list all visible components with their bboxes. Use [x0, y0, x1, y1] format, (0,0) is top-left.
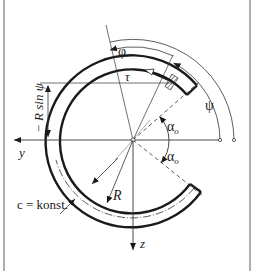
z-axis-label: z — [139, 236, 145, 251]
dimension-label: − R sin ψ — [31, 82, 46, 133]
y-axis-label: y — [17, 145, 25, 160]
alpha-upper-label: αo — [167, 119, 179, 136]
inner-wall — [60, 69, 190, 213]
phi-label: φ — [118, 44, 126, 59]
alpha-upper-line — [133, 83, 198, 140]
diagram-frame: φ τ ψ αo αo y z R c = konst. − R sin ψ — [0, 0, 257, 271]
hatched-element — [165, 74, 178, 90]
psi-label: ψ — [205, 98, 214, 113]
wall-note-label: c = konst. — [17, 197, 68, 212]
ring-section-diagram: φ τ ψ αo αo y z R c = konst. − R sin ψ — [0, 0, 257, 271]
wall-arrow-inner — [92, 158, 118, 184]
tau-label: τ — [125, 69, 131, 84]
psi-arc-start-dot — [218, 138, 221, 141]
radial-line — [115, 140, 133, 160]
radial-line — [133, 120, 150, 140]
outer-wall — [46, 55, 201, 227]
psi-arc-end-dot — [232, 138, 235, 141]
radius-label: R — [112, 188, 122, 203]
alpha-lower-label: αo — [167, 149, 179, 166]
upper-end-cap — [187, 86, 197, 96]
